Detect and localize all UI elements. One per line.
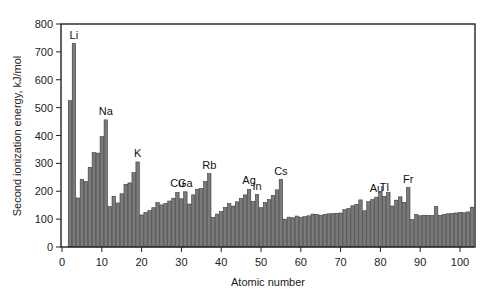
- element-label-fr: Fr: [403, 173, 414, 185]
- element-label-na: Na: [99, 105, 114, 117]
- bar-element-79: [375, 197, 378, 247]
- bar-element-77: [367, 202, 370, 247]
- bar-element-61: [303, 217, 306, 247]
- bar-element-40: [219, 212, 222, 247]
- bar-element-39: [216, 214, 219, 247]
- x-tick-label: 30: [175, 256, 187, 268]
- bar-element-5: [80, 179, 83, 247]
- bar-element-82: [387, 193, 390, 247]
- bar-element-41: [223, 207, 226, 247]
- bar-element-92: [426, 216, 429, 248]
- bar-element-25: [160, 205, 163, 247]
- bar-element-2: [68, 101, 71, 247]
- bar-element-97: [446, 214, 449, 247]
- bar-element-100: [458, 212, 461, 247]
- bar-element-73: [351, 206, 354, 247]
- bar-element-55: [279, 180, 282, 247]
- y-tick-label: 0: [47, 241, 53, 253]
- x-tick-label: 60: [295, 256, 307, 268]
- bar-element-62: [307, 216, 310, 247]
- x-tick-label: 20: [135, 256, 147, 268]
- element-label-cs: Cs: [274, 165, 288, 177]
- bar-element-50: [259, 208, 262, 247]
- bar-element-89: [415, 214, 418, 247]
- bar-element-87: [407, 188, 410, 247]
- bar-element-74: [355, 204, 358, 247]
- bar-element-51: [263, 202, 266, 247]
- bar-element-28: [172, 198, 175, 247]
- bar-element-84: [395, 200, 398, 247]
- bar-element-93: [430, 216, 433, 248]
- element-label-k: K: [134, 147, 142, 159]
- x-tick-label: 80: [374, 256, 386, 268]
- bar-element-19: [136, 162, 139, 247]
- bar-element-102: [466, 212, 469, 247]
- bar-element-70: [339, 213, 342, 247]
- y-axis: 0100200300400500600700800: [35, 18, 61, 253]
- element-label-ga: Ga: [178, 177, 194, 189]
- bar-element-46: [243, 195, 246, 247]
- bar-element-99: [454, 213, 457, 247]
- bar-element-72: [347, 209, 350, 247]
- y-tick-label: 200: [35, 185, 53, 197]
- bar-element-17: [128, 183, 131, 247]
- bar-element-91: [422, 215, 425, 247]
- bar-element-33: [192, 195, 195, 247]
- x-tick-label: 40: [215, 256, 227, 268]
- bar-element-23: [152, 208, 155, 247]
- bar-element-12: [108, 207, 111, 247]
- bar-element-42: [227, 204, 230, 247]
- element-label-in: In: [252, 180, 261, 192]
- bar-element-67: [327, 214, 330, 247]
- bar-element-54: [275, 190, 278, 247]
- bar-element-11: [104, 120, 107, 247]
- bar-element-36: [204, 181, 207, 247]
- bar-element-75: [359, 200, 362, 247]
- bar-element-21: [144, 212, 147, 247]
- bar-element-47: [247, 189, 250, 247]
- bar-element-43: [231, 206, 234, 247]
- bar-element-7: [88, 167, 91, 247]
- bar-element-10: [100, 137, 103, 247]
- bar-element-59: [295, 216, 298, 247]
- bar-element-63: [311, 214, 314, 247]
- bar-element-14: [116, 203, 119, 247]
- bar-element-98: [450, 214, 453, 247]
- x-axis: 0102030405060708090100: [59, 247, 469, 268]
- bar-element-94: [434, 207, 437, 247]
- bar-element-15: [120, 194, 123, 247]
- bar-element-83: [391, 206, 394, 247]
- bar-element-22: [148, 210, 151, 247]
- bar-element-37: [208, 174, 211, 247]
- bar-element-65: [319, 215, 322, 247]
- bar-element-95: [438, 216, 441, 248]
- bar-element-29: [176, 192, 179, 247]
- bar-element-31: [184, 192, 187, 247]
- bar-element-57: [287, 217, 290, 247]
- bar-element-9: [96, 153, 99, 247]
- bar-element-13: [112, 196, 115, 247]
- bar-element-32: [188, 204, 191, 247]
- bar-element-26: [164, 204, 167, 247]
- x-tick-label: 10: [96, 256, 108, 268]
- bar-element-35: [200, 188, 203, 247]
- element-label-li: Li: [70, 29, 79, 41]
- bar-element-24: [156, 203, 159, 247]
- bar-element-4: [76, 198, 79, 247]
- bar-element-66: [323, 214, 326, 247]
- bar-element-27: [168, 201, 171, 247]
- y-tick-label: 100: [35, 213, 53, 225]
- element-label-tl: Tl: [380, 181, 389, 193]
- y-tick-label: 300: [35, 157, 53, 169]
- x-axis-title: Atomic number: [231, 276, 305, 288]
- y-tick-label: 600: [35, 74, 53, 86]
- bar-element-58: [291, 218, 294, 247]
- bar-element-71: [343, 210, 346, 247]
- bar-element-16: [124, 184, 127, 247]
- x-tick-label: 0: [59, 256, 65, 268]
- y-tick-label: 500: [35, 102, 53, 114]
- bar-element-81: [383, 196, 386, 247]
- bar-element-48: [251, 202, 254, 247]
- bar-element-96: [442, 215, 445, 247]
- bar-element-56: [283, 219, 286, 247]
